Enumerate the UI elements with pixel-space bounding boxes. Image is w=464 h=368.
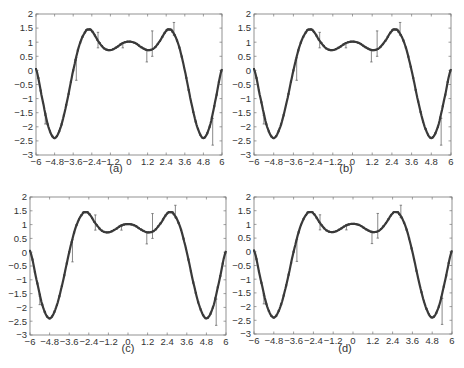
x-tick-label: 4.8: [426, 335, 439, 346]
x-tick-label: 2.4: [386, 335, 399, 346]
x-tick-label: −2.4: [304, 335, 323, 346]
x-tick-label: −4.8: [264, 335, 283, 346]
y-tick-label: −1: [240, 274, 251, 285]
y-tick-label: 1: [246, 219, 251, 230]
y-tick-label: −0.5: [232, 260, 251, 271]
x-tick-label: 3.6: [406, 335, 419, 346]
y-tick-label: −3: [240, 328, 251, 339]
fitted-curve: [254, 212, 452, 318]
axes-box: [254, 197, 452, 334]
x-tick-label: 6: [449, 335, 454, 346]
y-tick-label: −2.5: [232, 315, 251, 326]
y-tick-label: −2: [240, 301, 251, 312]
panel-caption: (d): [325, 342, 365, 354]
x-tick-label: 1.2: [366, 335, 379, 346]
plot-area: −6−4.8−3.6−2.4−1.201.22.43.64.86−3−2.5−2…: [0, 0, 464, 368]
y-tick-label: 0.5: [238, 232, 251, 243]
y-tick-label: 2: [246, 191, 251, 202]
y-tick-label: −1.5: [232, 287, 251, 298]
x-tick-label: −3.6: [284, 335, 303, 346]
y-tick-label: 1.5: [238, 205, 251, 216]
y-tick-label: 0: [246, 246, 251, 257]
